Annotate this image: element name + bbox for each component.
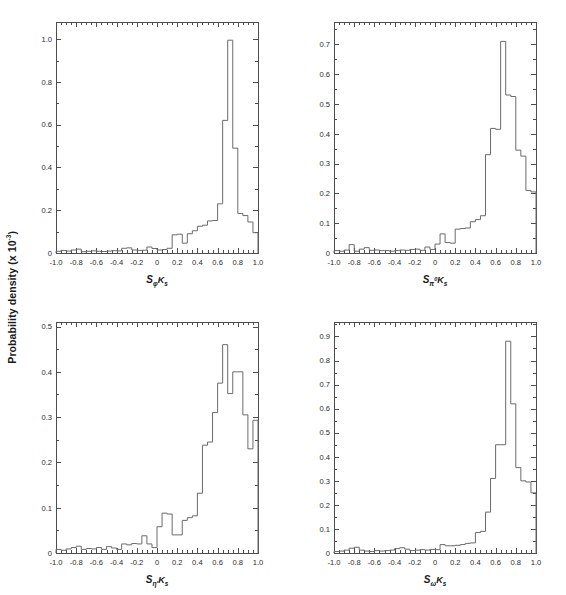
y-tick-label: 0 xyxy=(326,549,330,558)
y-tick-label: 0 xyxy=(326,249,330,258)
x-tick-label: 0.4 xyxy=(192,558,203,567)
panel-pi0-ks: -1.0-0.8-0.6-0.4-0.200.20.40.60.81.000.1… xyxy=(300,8,544,293)
panel-omega-ks: -1.0-0.8-0.6-0.4-0.200.20.40.60.81.000.1… xyxy=(300,308,544,593)
x-tick-label: -0.6 xyxy=(90,558,103,567)
x-axis-title: Sη′Ks xyxy=(146,574,169,588)
y-tick-label: 0 xyxy=(48,549,52,558)
x-tick-label: 1.0 xyxy=(253,258,264,267)
plot-area-bottom-right: -1.0-0.8-0.6-0.4-0.200.20.40.60.81.000.1… xyxy=(300,308,544,593)
y-tick-label: 1.0 xyxy=(41,35,52,44)
panel-etaprime-ks: -1.0-0.8-0.6-0.4-0.200.20.40.60.81.000.1… xyxy=(22,308,266,593)
axes-frame xyxy=(335,323,537,554)
x-axis-title: SωKs xyxy=(424,574,447,587)
y-axis-label: Probability density (x 10-3) xyxy=(0,0,22,595)
y-tick-label: 0.2 xyxy=(319,501,330,510)
y-tick-label: 0.3 xyxy=(319,159,330,168)
plot-area-top-right: -1.0-0.8-0.6-0.4-0.200.20.40.60.81.000.1… xyxy=(300,8,544,293)
x-tick-label: 0.8 xyxy=(233,558,244,567)
x-tick-label: -0.2 xyxy=(130,558,143,567)
x-tick-label: -0.8 xyxy=(348,258,361,267)
y-tick-label: 0.1 xyxy=(319,525,330,534)
y-tick-label: 0.3 xyxy=(319,477,330,486)
histogram-outline xyxy=(334,341,536,553)
x-tick-label: 0 xyxy=(433,558,437,567)
x-axis-title-subs: s xyxy=(165,580,169,587)
x-tick-label: -0.8 xyxy=(70,558,83,567)
x-tick-label: -0.8 xyxy=(70,258,83,267)
x-tick-label: -0.4 xyxy=(110,558,123,567)
x-tick-label: -1.0 xyxy=(327,558,340,567)
histogram-outline xyxy=(56,40,258,253)
x-tick-label: 0.8 xyxy=(233,258,244,267)
x-tick-label: -0.2 xyxy=(408,558,421,567)
x-tick-label: -0.6 xyxy=(368,558,381,567)
y-tick-label: 0.4 xyxy=(319,130,330,139)
plot-area-top-left: -1.0-0.8-0.6-0.4-0.200.20.40.60.81.000.2… xyxy=(22,8,266,293)
y-tick-label: 0.5 xyxy=(41,322,52,331)
x-tick-label: 0.8 xyxy=(511,558,522,567)
y-tick-label: 0.1 xyxy=(319,219,330,228)
y-tick-label: 0.5 xyxy=(319,428,330,437)
y-axis-label-text: Probability density (x 10 xyxy=(5,241,17,364)
y-tick-label: 0.6 xyxy=(41,120,52,129)
x-axis-title: SφKs xyxy=(146,274,168,288)
x-tick-label: 0.4 xyxy=(192,258,203,267)
axes-frame xyxy=(335,23,537,254)
x-tick-label: 0.6 xyxy=(490,258,501,267)
x-axis-title: Sπ0Ks xyxy=(423,274,448,287)
x-tick-label: 0.2 xyxy=(450,558,461,567)
y-tick-label: 0.6 xyxy=(319,404,330,413)
y-tick-label: 0.3 xyxy=(41,413,52,422)
x-tick-label: -0.4 xyxy=(110,258,123,267)
x-tick-label: 0.8 xyxy=(511,258,522,267)
x-tick-label: 0.2 xyxy=(450,258,461,267)
x-tick-label: -0.8 xyxy=(348,558,361,567)
x-axis-title-subs: s xyxy=(444,280,448,287)
x-tick-label: 0.6 xyxy=(212,558,223,567)
x-tick-label: 0.2 xyxy=(172,258,183,267)
x-tick-label: 1.0 xyxy=(531,258,542,267)
x-tick-label: -0.6 xyxy=(90,258,103,267)
x-tick-label: 0.4 xyxy=(470,558,481,567)
y-tick-label: 0.4 xyxy=(41,368,52,377)
x-tick-label: -1.0 xyxy=(49,258,62,267)
y-tick-label: 0.7 xyxy=(319,40,330,49)
x-tick-label: 0 xyxy=(155,558,159,567)
y-axis-label-exponent: -3 xyxy=(5,235,12,241)
x-tick-label: 0.6 xyxy=(490,558,501,567)
panel-phi-ks: -1.0-0.8-0.6-0.4-0.200.20.40.60.81.000.2… xyxy=(22,8,266,293)
y-tick-label: 0.4 xyxy=(319,453,330,462)
y-tick-label: 0.2 xyxy=(41,458,52,467)
y-tick-label: 0 xyxy=(48,249,52,258)
x-tick-label: -0.6 xyxy=(368,258,381,267)
y-tick-label: 0.1 xyxy=(41,504,52,513)
x-axis-title-subs: s xyxy=(443,580,447,587)
y-tick-label: 0.5 xyxy=(319,100,330,109)
x-tick-label: -1.0 xyxy=(49,558,62,567)
x-tick-label: 1.0 xyxy=(253,558,264,567)
x-tick-label: 1.0 xyxy=(531,558,542,567)
x-tick-label: 0.2 xyxy=(172,558,183,567)
y-tick-label: 0.8 xyxy=(319,356,330,365)
x-tick-label: 0.4 xyxy=(470,258,481,267)
y-axis-label-close: ) xyxy=(5,231,17,235)
x-tick-label: -0.4 xyxy=(388,558,401,567)
y-tick-label: 0.4 xyxy=(41,163,52,172)
histogram-outline xyxy=(334,41,536,253)
x-tick-label: -0.2 xyxy=(408,258,421,267)
x-tick-label: -0.4 xyxy=(388,258,401,267)
x-tick-label: -0.2 xyxy=(130,258,143,267)
y-tick-label: 0.8 xyxy=(41,78,52,87)
y-tick-label: 0.2 xyxy=(41,206,52,215)
x-tick-label: 0 xyxy=(433,258,437,267)
y-tick-label: 0.7 xyxy=(319,380,330,389)
plot-area-bottom-left: -1.0-0.8-0.6-0.4-0.200.20.40.60.81.000.1… xyxy=(22,308,266,593)
x-tick-label: 0 xyxy=(155,258,159,267)
y-tick-label: 0.2 xyxy=(319,189,330,198)
x-axis-title-subs: s xyxy=(164,280,168,287)
y-tick-label: 0.6 xyxy=(319,70,330,79)
histogram-outline xyxy=(56,345,258,553)
figure-canvas: Probability density (x 10-3) -1.0-0.8-0.… xyxy=(0,0,566,595)
x-tick-label: -1.0 xyxy=(327,258,340,267)
y-tick-label: 0.9 xyxy=(319,332,330,341)
